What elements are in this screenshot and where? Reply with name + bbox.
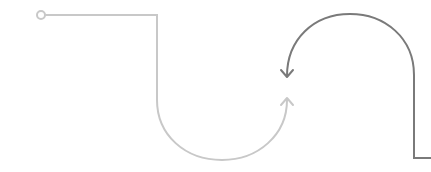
start-node-circle xyxy=(37,11,45,19)
flow-diagram xyxy=(0,0,431,172)
dark-connector-path xyxy=(287,14,431,158)
light-connector-path xyxy=(45,15,287,160)
